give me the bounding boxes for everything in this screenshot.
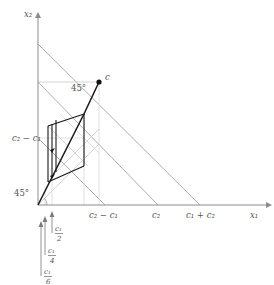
measure-arrow-head-0 [50,211,55,217]
x-tick-label-0: c₂ − c₁ [89,210,118,220]
point-c-marker [96,79,101,84]
measure-arrows: c₁ 2 c₁ 4 c₁ 6 [39,211,63,285]
y-axis-arrowhead [35,12,41,18]
measure-arrow-num-1: c₁ [48,247,55,255]
measure-arrow-num-2: c₁ [44,268,51,276]
angle-label-at-origin: 45° [14,188,29,198]
x-axis-arrowhead [266,202,272,208]
construction-lines [38,44,200,205]
measure-arrow-den-1: 4 [49,257,54,265]
ray-45-upper [38,144,99,205]
measure-arrow-num-0: c₁ [55,225,62,233]
measure-arrow-head-1 [43,216,48,222]
angle-label-at-c: 45° [71,83,86,93]
measure-arrow-den-2: 6 [46,278,51,285]
x-tick-label-2: c₁ + c₂ [186,210,215,220]
geometry-figure: c 45° 45° c₂ − c₁ c₂ c₁ + c₂ x₁ c₂ − c₁ … [0,0,274,285]
x-axis-label: x₁ [250,210,258,220]
measure-arrow-den-0: 2 [56,235,62,243]
point-c-label: c [105,72,110,82]
x-tick-label-1: c₂ [152,210,161,220]
cross-diagonal-a [52,129,99,176]
y-tick-label-0: c₂ − c₁ [12,133,41,143]
axes [35,12,272,208]
y-axis-label: x₂ [24,9,33,19]
